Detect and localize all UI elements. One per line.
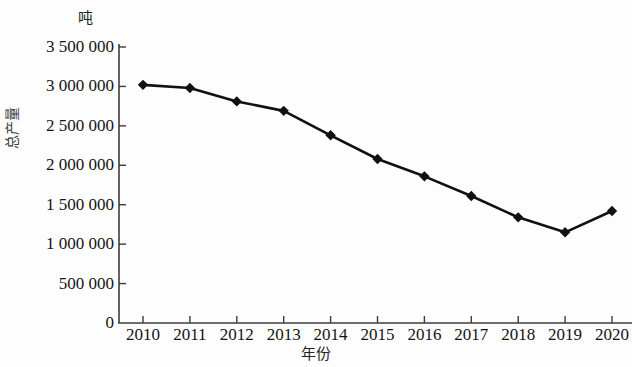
chart-figure: 吨 总产量 0500 0001 000 0001 500 0002 000 00… — [0, 0, 632, 367]
x-axis-tick-labels: 2010201120122013201420152016201720182019… — [0, 0, 632, 367]
x-axis-title: 年份 — [0, 342, 632, 363]
